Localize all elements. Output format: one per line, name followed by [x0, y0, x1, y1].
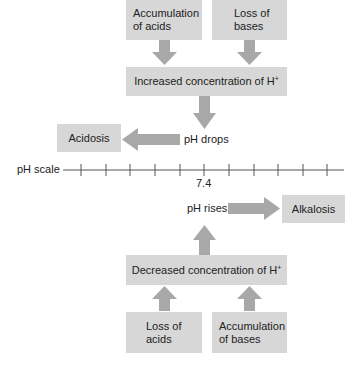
arrow-down-icon — [193, 96, 216, 129]
outcome-box-alkalosis: Alkalosis — [282, 195, 345, 223]
cause-line1: Accumulation — [133, 7, 202, 20]
cause-box-loss-of-bases: Loss of bases — [212, 0, 287, 40]
arrow-left-icon — [122, 128, 180, 151]
outcome-box-acidosis: Acidosis — [57, 124, 121, 152]
effect-box-increased-h: Increased concentration of H+ — [126, 67, 287, 96]
arrow-down-icon — [152, 40, 177, 65]
ph-rises-label: pH rises — [187, 202, 227, 215]
cause-box-accumulation-of-bases: Accumulation of bases — [212, 312, 287, 353]
ph-drops-label: pH drops — [184, 133, 229, 146]
effect-text: Increased concentration of H+ — [134, 75, 279, 88]
arrow-up-icon — [193, 225, 216, 255]
arrow-up-icon — [237, 286, 262, 311]
diagram-graphics — [0, 0, 359, 365]
arrow-right-icon — [228, 197, 280, 220]
cause-line1: Loss of — [234, 7, 287, 20]
cause-line2: acids — [146, 333, 202, 346]
arrow-down-icon — [237, 40, 262, 65]
cause-line2: of acids — [133, 20, 202, 33]
ph-scale-label: pH scale — [17, 163, 60, 176]
ph-center-value: 7.4 — [196, 177, 211, 190]
cause-line2: bases — [234, 20, 287, 33]
cause-line1: Accumulation — [219, 320, 287, 333]
effect-box-decreased-h: Decreased concentration of H+ — [126, 255, 287, 285]
arrow-up-icon — [152, 286, 177, 311]
outcome-label: Alkalosis — [292, 203, 335, 216]
cause-line1: Loss of — [146, 320, 202, 333]
effect-text: Decreased concentration of H+ — [132, 264, 282, 277]
cause-box-accumulation-of-acids: Accumulation of acids — [126, 0, 202, 40]
cause-line2: of bases — [219, 333, 287, 346]
cause-box-loss-of-acids: Loss of acids — [126, 312, 202, 353]
outcome-label: Acidosis — [69, 132, 110, 145]
